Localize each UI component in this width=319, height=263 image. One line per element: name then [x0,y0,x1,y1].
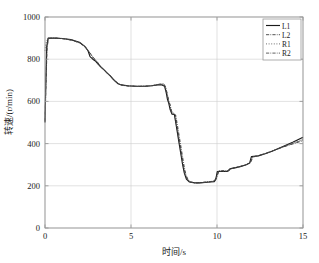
chart-figure: 051015 02004006008001000 L1L2R1R2 时间/s 转… [0,0,319,263]
legend-label-l2: L2 [282,31,291,40]
y-tick-label: 200 [27,181,40,191]
x-tick-label: 5 [129,231,133,241]
x-axis-label: 时间/s [162,246,187,257]
chart-legend: L1L2R1R2 [263,19,301,60]
x-tick-label: 0 [43,231,47,241]
y-axis-label: 转速/(r/min) [3,89,14,135]
chart-canvas: 051015 02004006008001000 L1L2R1R2 时间/s 转… [0,0,319,263]
y-tick-label: 800 [27,54,40,64]
legend-label-r1: R1 [282,40,291,49]
y-tick-label: 600 [27,96,40,106]
x-tick-label: 10 [213,231,222,241]
legend-label-l1: L1 [282,22,291,31]
y-tick-label: 0 [36,223,40,233]
x-tick-label: 15 [299,231,308,241]
y-tick-label: 1000 [23,12,40,22]
legend-label-r2: R2 [282,49,291,58]
y-tick-label: 400 [27,139,40,149]
